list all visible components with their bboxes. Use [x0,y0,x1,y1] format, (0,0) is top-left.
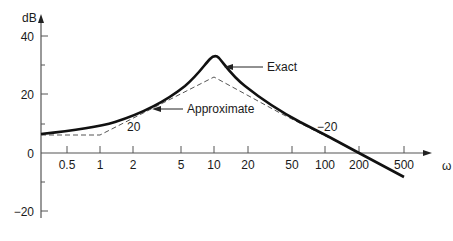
y-tick-40: 40 [4,31,34,43]
y-tick-minus-20: −20 [4,206,34,218]
x-tick-10: 10 [207,159,220,171]
x-tick-50: 50 [285,159,298,171]
bode-magnitude-plot [0,0,453,241]
approximate-annotation: Approximate [187,103,254,115]
slope-down-annotation: −20 [317,121,337,133]
x-axis-label: ω [442,160,451,172]
x-tick-5: 5 [178,159,185,171]
x-tick-20: 20 [241,159,254,171]
y-axis-arrow-icon [38,14,44,23]
y-tick-20: 20 [4,89,34,101]
x-axis-arrow-icon [423,150,432,156]
y-tick-0: 0 [4,148,34,160]
x-tick-2: 2 [130,159,137,171]
y-axis-label: dB [22,12,37,24]
x-tick-500: 500 [394,159,414,171]
slope-up-annotation: 20 [127,121,140,133]
x-tick-200: 200 [349,159,369,171]
x-tick-1: 1 [97,159,104,171]
x-tick-0-5: 0.5 [59,159,76,171]
exact-annotation: Exact [267,61,297,73]
x-tick-100: 100 [315,159,335,171]
